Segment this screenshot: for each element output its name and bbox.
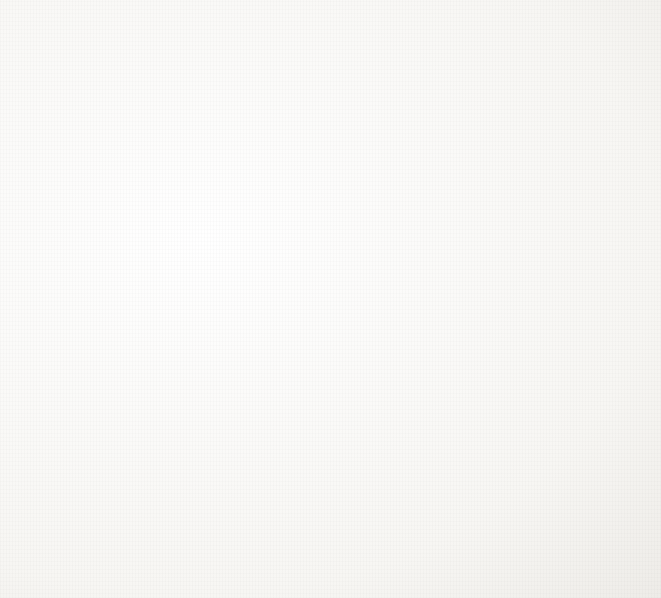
center-total-bubble: Total: $1.2 trillion xyxy=(185,263,337,377)
chart-title: Defense Spending, 2006 (% of world total… xyxy=(0,2,661,64)
inner-label-us-name: U.S. xyxy=(121,196,160,218)
chart-title-line2: (% of world total) xyxy=(0,33,661,64)
chart-title-line1: Defense Spending, 2006 xyxy=(0,2,661,33)
inner-label-rest-value: 28.3 xyxy=(327,405,366,427)
leader-line-france xyxy=(384,160,425,216)
inner-label-us-value: 45.7 xyxy=(165,196,204,218)
leader-line-russia xyxy=(416,329,470,330)
inner-label-rest: Rest of world 28.3 xyxy=(195,405,366,428)
inner-label-rest-name: Rest of world xyxy=(195,405,322,427)
source-label: Source: xyxy=(203,586,246,598)
center-total-line1: Total: xyxy=(233,295,289,320)
source-note: Source: Stockholm International Peace Re… xyxy=(0,586,661,598)
leader-line-india xyxy=(410,359,462,364)
center-total-line2: $1.2 trillion xyxy=(206,320,317,345)
inner-label-us: U.S. 45.7 xyxy=(121,196,204,219)
source-text: Stockholm International Peace Research xyxy=(249,586,457,598)
leader-line-germany xyxy=(432,294,478,297)
